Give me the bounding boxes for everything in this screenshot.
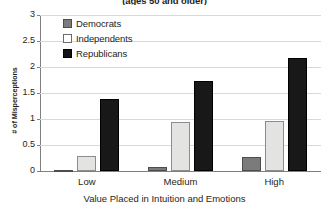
legend-label: Independents xyxy=(76,33,132,44)
y-tick-mark xyxy=(37,15,40,16)
y-tick-label: 1 xyxy=(12,113,35,123)
y-tick-mark xyxy=(37,67,40,68)
chart-title: (ages 50 and older) xyxy=(0,0,329,5)
legend-label: Republicans xyxy=(76,48,127,59)
y-tick-mark xyxy=(37,171,40,172)
gridline xyxy=(40,119,321,120)
y-tick-label: 2 xyxy=(12,61,35,71)
y-tick-mark xyxy=(37,145,40,146)
y-tick-mark xyxy=(37,41,40,42)
legend: DemocratsIndependentsRepublicans xyxy=(63,16,132,61)
legend-item-independents[interactable]: Independents xyxy=(63,31,132,45)
bar-low-republicans xyxy=(100,99,119,171)
y-tick-label: 0 xyxy=(12,165,35,175)
legend-label: Democrats xyxy=(76,18,121,29)
legend-swatch-democrats xyxy=(63,19,72,28)
x-tick-label: Medium xyxy=(134,176,228,187)
y-tick-label: 0.5 xyxy=(12,139,35,149)
gridline xyxy=(40,67,321,68)
bar-high-republicans xyxy=(288,58,307,171)
gridline xyxy=(40,93,321,94)
legend-item-republicans[interactable]: Republicans xyxy=(63,46,132,60)
bar-low-democrats xyxy=(54,170,73,172)
bar-high-independents xyxy=(265,121,284,171)
bar-medium-independents xyxy=(171,122,190,171)
chart-figure: (ages 50 and older) # of Misperceptions … xyxy=(0,0,329,211)
bar-low-independents xyxy=(77,156,96,171)
y-tick-label: 2.5 xyxy=(12,35,35,45)
x-tick-label: High xyxy=(227,176,321,187)
gridline xyxy=(40,171,321,172)
y-tick-label: 1.5 xyxy=(12,87,35,97)
y-tick-mark xyxy=(37,119,40,120)
bar-medium-democrats xyxy=(148,167,167,171)
y-tick-label: 3 xyxy=(12,9,35,19)
legend-swatch-republicans xyxy=(63,49,72,58)
x-axis-title: Value Placed in Intuition and Emotions xyxy=(0,193,329,204)
bar-medium-republicans xyxy=(194,81,213,171)
x-tick-label: Low xyxy=(40,176,134,187)
legend-item-democrats[interactable]: Democrats xyxy=(63,16,132,30)
y-tick-mark xyxy=(37,93,40,94)
legend-swatch-independents xyxy=(63,34,72,43)
bar-high-democrats xyxy=(242,157,261,171)
